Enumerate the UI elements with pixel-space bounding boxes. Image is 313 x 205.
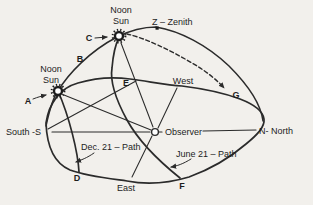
label-arrow-dec [76,153,94,162]
observer-west-line [158,88,177,128]
sightline-observer-dec-sun [64,95,151,130]
meridian-arc [46,27,263,126]
zenith-label: Z – Zenith [152,17,193,27]
label-arrow-a [33,95,46,99]
june-noon-sun-label-line2: Sun [113,16,129,26]
dec-noon-sun-label-line1b: Noon [40,64,62,74]
diagram-canvas: Noon Sun Z – Zenith C B Noon Sun A E Wes… [0,0,313,205]
june21-path-label: June 21 – Path [176,149,237,159]
east-label: East [117,183,136,193]
label-arrow-june [171,159,191,167]
point-label-a: A [25,96,32,106]
label-arrow-c [95,37,107,38]
sun-path-diagram: Noon Sun Z – Zenith C B Noon Sun A E Wes… [0,0,313,205]
dec21-path-label: Dec. 21 – Path [81,142,141,152]
observer-label: Observer [165,127,202,137]
point-label-f: F [179,181,185,191]
point-label-d: D [74,173,81,183]
south-north-line-right [203,130,256,131]
south-label: South -S [6,127,41,137]
north-label: N- North [259,126,293,136]
west-label: West [173,76,194,86]
dec-noon-sun-label-line2: Sun [43,75,59,85]
dec-noon-sun-icon [52,85,65,98]
point-label-b: B [77,54,84,64]
june-noon-sun-icon [113,30,126,43]
point-label-c: C [86,33,93,43]
point-label-e: E [123,78,129,88]
point-label-g: G [232,90,239,100]
june-noon-sun-label-line1: Noon [110,5,132,15]
observer-marker [152,129,159,136]
